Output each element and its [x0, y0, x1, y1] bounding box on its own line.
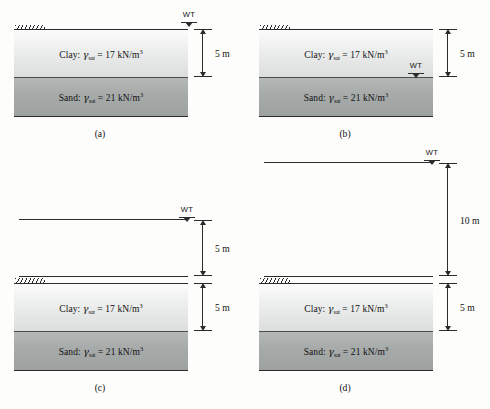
dimension-clay-a: 5 m — [196, 29, 210, 77]
dimension-water-d: 10 m — [441, 163, 455, 276]
dimension-tick-bottom — [194, 76, 212, 77]
clay-unit: kN/m — [117, 49, 139, 59]
panel-d: WT 10 m Clay: γsat = 17 kN/m3 Sand: γsat… — [245, 150, 490, 409]
dimension-stem — [202, 32, 203, 74]
dimension-stem — [202, 223, 203, 273]
sand-subscript: sat — [334, 97, 340, 104]
dimension-label-clay-d: 5 m — [460, 302, 475, 313]
panel-c: WT 5 m Clay: γsat = 17 kN/m3 Sand: γsat … — [0, 150, 245, 409]
dimension-arrow-up-icon — [445, 283, 451, 288]
dimension-label-clay-b: 5 m — [460, 48, 475, 59]
sand-unit: kN/m — [363, 347, 385, 357]
sand-value: 21 — [106, 93, 116, 103]
dimension-label-clay-c: 5 m — [215, 302, 230, 313]
sand-value: 21 — [106, 347, 116, 357]
clay-exponent: 3 — [140, 47, 143, 54]
sand-layer-d: Sand: γsat = 21 kN/m3 — [259, 331, 433, 371]
water-table-label-c: WT — [181, 205, 193, 214]
ground-surface-line-d — [264, 276, 433, 277]
sand-exponent: 3 — [140, 345, 143, 352]
dimension-tick-bottom — [194, 330, 212, 331]
dimension-clay-b: 5 m — [441, 29, 455, 77]
dimension-arrow-up-icon — [200, 220, 206, 225]
water-surface-line-d — [264, 162, 433, 163]
clay-subscript: sat — [89, 53, 95, 60]
clay-name: Clay — [59, 49, 77, 59]
clay-value: 17 — [105, 49, 115, 59]
water-surface-line-c — [19, 219, 188, 220]
sand-subscript: sat — [89, 97, 95, 104]
sand-layer-label-c: Sand: γsat = 21 kN/m3 — [14, 346, 188, 357]
sand-name: Sand — [304, 347, 323, 357]
water-table-triangle-icon — [183, 217, 191, 222]
sand-equals: = — [343, 93, 348, 103]
water-table-triangle-icon — [428, 160, 436, 165]
panel-caption-d: (d) — [325, 382, 365, 393]
sand-value: 21 — [351, 347, 361, 357]
clay-equals: = — [97, 303, 102, 313]
ground-hatching-b — [260, 25, 290, 30]
ground-surface-line-c — [19, 276, 188, 277]
clay-subscript: sat — [89, 307, 95, 314]
sand-layer-b: Sand: γsat = 21 kN/m3 — [259, 77, 433, 117]
clay-unit: kN/m — [362, 303, 384, 313]
sand-layer-label-a: Sand: γsat = 21 kN/m3 — [14, 92, 188, 103]
clay-value: 17 — [350, 49, 360, 59]
gamma-icon: γ — [83, 302, 89, 313]
clay-layer-d: Clay: γsat = 17 kN/m3 — [259, 283, 433, 331]
dimension-tick-bottom — [439, 76, 457, 77]
panel-caption-a: (a) — [80, 128, 120, 139]
dimension-stem — [447, 32, 448, 74]
panel-b: Clay: γsat = 17 kN/m3 Sand: γsat = 21 kN… — [245, 0, 490, 150]
dimension-arrow-up-icon — [200, 29, 206, 34]
clay-exponent: 3 — [385, 47, 388, 54]
clay-layer-label-c: Clay: γsat = 17 kN/m3 — [14, 302, 188, 313]
clay-equals: = — [342, 49, 347, 59]
sand-exponent: 3 — [385, 91, 388, 98]
dimension-label-water-c: 5 m — [215, 243, 230, 254]
sand-exponent: 3 — [385, 345, 388, 352]
sand-layer-label-d: Sand: γsat = 21 kN/m3 — [259, 346, 433, 357]
clay-layer-c: Clay: γsat = 17 kN/m3 — [14, 283, 188, 331]
gamma-icon: γ — [83, 48, 89, 59]
dimension-stem — [447, 286, 448, 328]
sand-unit: kN/m — [118, 347, 140, 357]
sand-layer-label-b: Sand: γsat = 21 kN/m3 — [259, 92, 433, 103]
dimension-clay-c: 5 m — [196, 283, 210, 331]
ground-hatching-a — [15, 25, 45, 30]
water-table-symbol-c: WT — [176, 206, 198, 226]
sand-equals: = — [98, 93, 103, 103]
sand-name: Sand — [59, 93, 78, 103]
sand-equals: = — [98, 347, 103, 357]
clay-equals: = — [97, 49, 102, 59]
sand-equals: = — [343, 347, 348, 357]
dimension-arrow-up-icon — [445, 163, 451, 168]
dimension-clay-d: 5 m — [441, 283, 455, 331]
clay-equals: = — [342, 303, 347, 313]
sand-layer-a: Sand: γsat = 21 kN/m3 — [14, 77, 188, 117]
panel-caption-c: (c) — [80, 382, 120, 393]
clay-name: Clay — [59, 303, 77, 313]
sand-value: 21 — [351, 93, 361, 103]
gamma-icon: γ — [328, 302, 334, 313]
clay-value: 17 — [350, 303, 360, 313]
dimension-tick-bottom — [194, 275, 212, 276]
clay-unit: kN/m — [117, 303, 139, 313]
sand-unit: kN/m — [363, 93, 385, 103]
dimension-water-c: 5 m — [196, 220, 210, 276]
clay-exponent: 3 — [140, 301, 143, 308]
water-table-symbol-a: WT — [178, 11, 200, 31]
sand-subscript: sat — [334, 351, 340, 358]
clay-subscript: sat — [334, 307, 340, 314]
water-table-triangle-icon — [185, 22, 193, 27]
dimension-arrow-up-icon — [445, 29, 451, 34]
dimension-tick-bottom — [439, 330, 457, 331]
sand-layer-c: Sand: γsat = 21 kN/m3 — [14, 331, 188, 371]
sand-unit: kN/m — [118, 93, 140, 103]
water-table-symbol-d: WT — [421, 149, 443, 169]
water-table-label-b: WT — [410, 61, 422, 70]
panel-caption-b: (b) — [325, 128, 365, 139]
clay-name: Clay — [304, 303, 322, 313]
clay-layer-label-d: Clay: γsat = 17 kN/m3 — [259, 302, 433, 313]
clay-layer-label-a: Clay: γsat = 17 kN/m3 — [14, 48, 188, 59]
